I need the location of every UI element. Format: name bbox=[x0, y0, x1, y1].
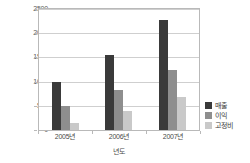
bar bbox=[177, 97, 186, 130]
x-axis-tick-label: 2005년 bbox=[55, 133, 76, 141]
bar bbox=[159, 20, 168, 130]
x-axis-tick-mark bbox=[200, 131, 201, 134]
y-axis-tick-mark bbox=[34, 57, 37, 58]
chart-legend: 매출이익고정비 bbox=[205, 102, 232, 129]
bar-groups bbox=[39, 9, 199, 130]
legend-item[interactable]: 고정비 bbox=[205, 122, 232, 129]
x-axis-tick-label: 2007년 bbox=[163, 133, 184, 141]
bar bbox=[105, 55, 114, 130]
bar bbox=[61, 106, 70, 130]
bar bbox=[123, 111, 132, 130]
y-axis-tick-mark bbox=[34, 82, 37, 83]
y-axis-tick-mark bbox=[34, 9, 37, 10]
bar bbox=[70, 123, 79, 130]
legend-swatch-icon bbox=[205, 112, 212, 119]
legend-item[interactable]: 이익 bbox=[205, 112, 232, 119]
legend-swatch-icon bbox=[205, 122, 212, 129]
bar-group bbox=[105, 9, 132, 130]
bar bbox=[114, 90, 123, 130]
x-axis-tick-label: 2006년 bbox=[109, 133, 130, 141]
legend-item[interactable]: 매출 bbox=[205, 102, 232, 109]
bar-chart: 05001000150020002500 2005년2006년2007년 년도 … bbox=[0, 0, 250, 163]
legend-label: 이익 bbox=[215, 112, 227, 119]
y-axis-tick-mark bbox=[34, 130, 37, 131]
bar-group bbox=[159, 9, 186, 130]
bar bbox=[168, 70, 177, 130]
legend-label: 매출 bbox=[215, 102, 227, 109]
legend-swatch-icon bbox=[205, 102, 212, 109]
bar bbox=[52, 82, 61, 130]
bar-group bbox=[52, 9, 79, 130]
legend-label: 고정비 bbox=[215, 122, 232, 129]
x-axis-title: 년도 bbox=[38, 146, 200, 156]
x-axis-labels: 2005년2006년2007년 bbox=[38, 133, 200, 141]
y-axis-tick-mark bbox=[34, 106, 37, 107]
y-axis-tick-mark bbox=[34, 33, 37, 34]
